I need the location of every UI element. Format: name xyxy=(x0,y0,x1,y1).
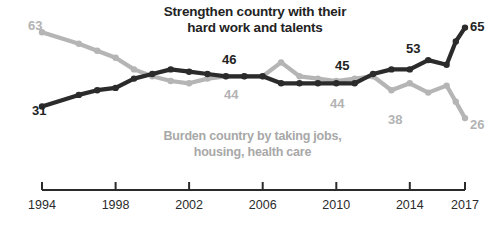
x-tick-label-2017: 2017 xyxy=(435,198,495,212)
x-tick-label-2006: 2006 xyxy=(233,198,293,212)
x-tick-label-2010: 2010 xyxy=(306,198,366,212)
x-tick-label-1994: 1994 xyxy=(12,198,72,212)
data-label-44-low: 44 xyxy=(330,96,344,111)
strengthen-series-title: Strengthen country with their hard work … xyxy=(160,4,350,36)
data-label-44-mid: 44 xyxy=(224,87,238,102)
data-label-46: 46 xyxy=(222,52,236,67)
data-label-53: 53 xyxy=(406,41,420,56)
data-label-45: 45 xyxy=(335,58,349,73)
data-label-31: 31 xyxy=(32,103,46,118)
title-line-2: hard work and talents xyxy=(160,20,350,36)
title-line-1: Strengthen country with their xyxy=(160,4,350,20)
x-tick-label-2002: 2002 xyxy=(159,198,219,212)
data-label-26: 26 xyxy=(470,117,484,132)
subtitle-line-1: Burden country by taking jobs, xyxy=(140,128,365,144)
strengthen-series-line xyxy=(42,28,465,107)
subtitle-line-2: housing, health care xyxy=(140,144,365,160)
line-chart: Strengthen country with their hard work … xyxy=(0,0,502,236)
x-tick-label-1998: 1998 xyxy=(86,198,146,212)
x-axis xyxy=(42,182,465,190)
burden-series-title: Burden country by taking jobs, housing, … xyxy=(140,128,365,160)
x-axis-ticks xyxy=(42,182,465,190)
x-tick-label-2014: 2014 xyxy=(380,198,440,212)
strengthen-series-points xyxy=(39,24,468,109)
data-label-65: 65 xyxy=(470,19,484,34)
data-label-63: 63 xyxy=(28,18,42,33)
data-label-38: 38 xyxy=(388,112,402,127)
